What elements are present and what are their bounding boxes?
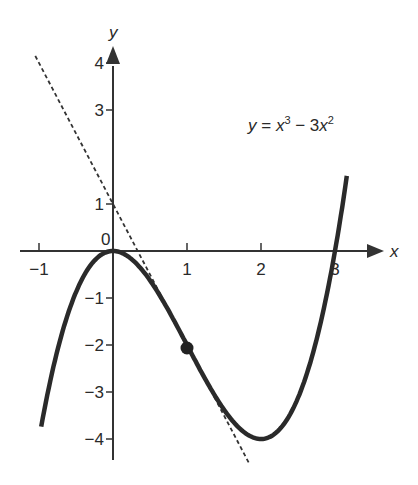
x-tick-label: −1: [29, 260, 48, 279]
y-tick-label: −4: [85, 430, 104, 449]
x-axis-label: x: [389, 242, 399, 261]
x-axis-arrow-icon: [367, 244, 384, 258]
axes: [20, 46, 384, 460]
y-tick-label: −1: [85, 289, 104, 308]
tangent-point-dot: [181, 342, 194, 355]
x-tick-label: 1: [182, 260, 191, 279]
curve-equation-label: y = x3 − 3x2: [247, 114, 334, 135]
y-tick-label: −3: [85, 383, 104, 402]
origin-label: 0: [101, 230, 110, 249]
y-tick-label: −2: [85, 336, 104, 355]
y-tick-label: 3: [95, 101, 104, 120]
tangent-point: [181, 342, 194, 355]
y-axis-label: y: [108, 23, 119, 42]
y-axis-arrow-icon: [106, 46, 120, 64]
x-tick-label: 2: [256, 260, 265, 279]
y-tick-label: 1: [95, 195, 104, 214]
y-tick-label: 4: [95, 54, 104, 73]
cubic-function-plot: −1123431−1−2−3−4 x y 0 y = x3 − 3x2: [0, 0, 418, 485]
